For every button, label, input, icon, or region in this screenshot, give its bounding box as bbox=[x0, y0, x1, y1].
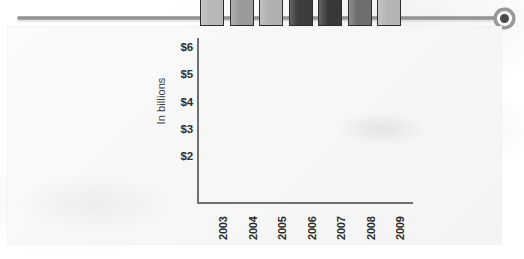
bar-sheen bbox=[319, 0, 328, 25]
bar-2006 bbox=[289, 0, 313, 26]
y-axis-tick-6: $6 bbox=[167, 41, 193, 53]
bar-2005 bbox=[259, 0, 283, 26]
y-axis-tick-3: $3 bbox=[167, 123, 193, 135]
bar-sheen bbox=[231, 0, 240, 25]
x-axis-tick-2006: 2006 bbox=[306, 216, 318, 240]
bar-sheen bbox=[260, 0, 269, 25]
bar-2007 bbox=[318, 0, 342, 26]
x-axis-tick-2009: 2009 bbox=[394, 216, 406, 240]
y-axis-tick-2: $2 bbox=[167, 150, 193, 162]
y-axis-tick-5: $5 bbox=[167, 68, 193, 80]
x-axis-tick-2008: 2008 bbox=[365, 216, 377, 240]
bar-sheen bbox=[378, 0, 387, 25]
x-axis-tick-2007: 2007 bbox=[335, 216, 347, 240]
chart-panel: In billions $6$5$4$3$2 20032004200520062… bbox=[7, 26, 502, 245]
x-axis-tick-labels: 2003200420052006200720082009 bbox=[199, 208, 413, 248]
bar-series bbox=[199, 26, 413, 202]
bar-2009 bbox=[377, 0, 401, 26]
y-axis-tick-4: $4 bbox=[167, 96, 193, 108]
y-axis-tick-labels: $6$5$4$3$2 bbox=[167, 26, 193, 245]
scanned-page: In billions $6$5$4$3$2 20032004200520062… bbox=[0, 0, 524, 259]
bar-chart: In billions $6$5$4$3$2 20032004200520062… bbox=[7, 26, 502, 245]
bar-2004 bbox=[230, 0, 254, 26]
y-axis-label: In billions bbox=[154, 62, 168, 140]
x-axis-line bbox=[197, 202, 413, 204]
bar-sheen bbox=[290, 0, 299, 25]
x-axis-tick-2003: 2003 bbox=[217, 216, 229, 240]
x-axis-tick-2005: 2005 bbox=[276, 216, 288, 240]
bar-2003 bbox=[200, 0, 224, 26]
bar-sheen bbox=[349, 0, 358, 25]
bar-2008 bbox=[348, 0, 372, 26]
x-axis-tick-2004: 2004 bbox=[247, 216, 259, 240]
bar-sheen bbox=[201, 0, 210, 25]
